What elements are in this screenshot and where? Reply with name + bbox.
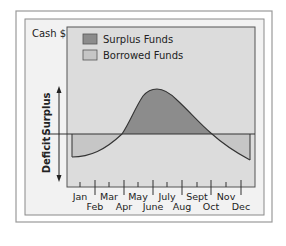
month-label-oct: Oct — [203, 201, 220, 212]
legend-swatch-surplus — [83, 34, 97, 44]
month-label-jan: Jan — [72, 191, 88, 202]
legend-label-surplus: Surplus Funds — [103, 34, 173, 45]
month-label-june: June — [142, 201, 164, 212]
month-label-dec: Dec — [232, 201, 250, 212]
month-label-apr: Apr — [116, 201, 133, 212]
surplus-axis-label: Surplus — [41, 93, 52, 136]
month-label-feb: Feb — [87, 201, 104, 212]
y-axis-label: Cash $ — [32, 28, 66, 39]
month-label-aug: Aug — [173, 201, 192, 212]
legend-label-borrowed: Borrowed Funds — [103, 50, 183, 61]
deficit-axis-label: Deficit — [41, 136, 52, 173]
legend-swatch-borrowed — [83, 50, 97, 60]
cash-flow-chart: Surplus Deficit Cash $ Surplus Funds Bor… — [0, 0, 286, 246]
